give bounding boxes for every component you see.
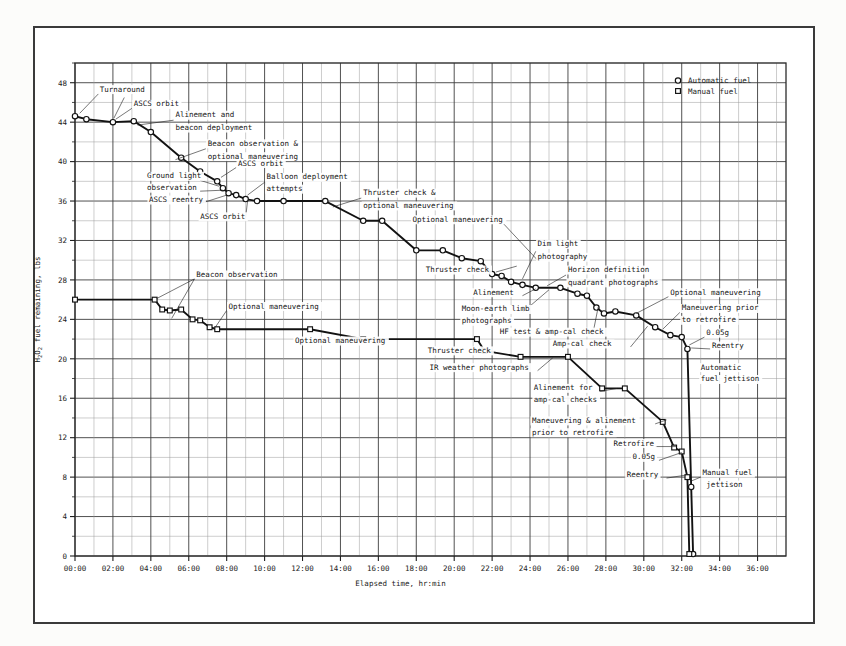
annotation-label: Optional maneuvering — [670, 288, 760, 297]
annotation-label: beacon deployment — [175, 123, 252, 132]
y-axis-title: H2O2 fuel remaining, lbs — [33, 257, 43, 363]
y-tick-label: 12 — [58, 433, 67, 442]
annotation-label: Thruster check — [428, 346, 492, 355]
annotation-leader — [522, 251, 535, 279]
data-point-automatic-fuel — [360, 218, 365, 223]
data-point-automatic-fuel — [459, 256, 464, 261]
annotation-leader — [691, 477, 700, 481]
x-tick-label: 14:00 — [329, 564, 352, 573]
y-tick-label: 48 — [58, 79, 68, 88]
annotation-leader — [248, 182, 265, 195]
data-point-automatic-fuel — [558, 285, 563, 290]
annotation-label: Optional maneuvering — [295, 336, 385, 345]
data-point-automatic-fuel — [668, 332, 673, 337]
annotation-label: photography — [538, 252, 588, 261]
x-tick-label: 06:00 — [177, 564, 200, 573]
legend-label-automatic-fuel: Automatic fuel — [688, 76, 751, 85]
data-point-manual-fuel — [190, 317, 195, 322]
annotation-label: fuel jettison — [701, 374, 760, 383]
annotation-label: Retrofire — [613, 439, 654, 448]
x-tick-label: 34:00 — [708, 564, 731, 573]
annotation-label: Balloon deployment — [266, 172, 347, 181]
annotation-label: ASCS reentry — [149, 195, 204, 204]
annotation-label: jettison — [706, 480, 742, 489]
y-tick-label: 36 — [58, 197, 68, 206]
annotation-leader — [636, 297, 668, 314]
annotation-label: 0.05g — [706, 328, 729, 337]
data-point-automatic-fuel — [226, 190, 231, 195]
annotation-label: observation — [147, 183, 197, 192]
annotation-leader — [659, 452, 682, 460]
data-point-manual-fuel — [672, 445, 677, 450]
x-tick-label: 24:00 — [519, 564, 542, 573]
annotation-leader — [138, 120, 174, 125]
x-tick-label: 36:00 — [746, 564, 769, 573]
data-point-manual-fuel — [566, 354, 571, 359]
data-point-automatic-fuel — [72, 114, 77, 119]
y-tick-label: 40 — [58, 157, 68, 166]
data-point-automatic-fuel — [215, 179, 220, 184]
data-point-manual-fuel — [160, 307, 165, 312]
annotation-label: quadrant photographs — [568, 278, 658, 287]
annotation-label: Horizon definition — [568, 265, 649, 274]
data-point-manual-fuel — [518, 354, 523, 359]
data-point-automatic-fuel — [652, 325, 657, 330]
data-point-manual-fuel — [600, 386, 605, 391]
annotation-label: attempts — [266, 184, 302, 193]
y-tick-label: 24 — [58, 315, 68, 324]
data-point-manual-fuel — [687, 552, 692, 557]
data-point-automatic-fuel — [254, 198, 259, 203]
annotation-label: Amp-cal check — [553, 339, 612, 348]
data-point-automatic-fuel — [520, 282, 525, 287]
data-point-automatic-fuel — [634, 313, 639, 318]
x-tick-label: 04:00 — [140, 564, 163, 573]
annotation-leader — [215, 310, 226, 327]
data-point-automatic-fuel — [499, 273, 504, 278]
data-point-automatic-fuel — [233, 192, 238, 197]
annotation-label: Alinement — [473, 288, 514, 297]
data-point-automatic-fuel — [379, 218, 384, 223]
annotation-label: Thruster check & — [363, 188, 436, 197]
data-point-automatic-fuel — [110, 119, 115, 124]
annotation-leader — [522, 289, 535, 296]
annotation-leader — [503, 224, 537, 260]
data-point-manual-fuel — [207, 325, 212, 330]
data-point-manual-fuel — [475, 337, 480, 342]
annotation-label: Reentry — [627, 470, 659, 479]
annotation-label: HF test & amp-cal check — [500, 327, 604, 336]
data-point-manual-fuel — [73, 297, 78, 302]
annotation-leader — [80, 94, 99, 114]
annotation-label: Automatic — [701, 363, 742, 372]
annotation-label: Optional maneuvering — [229, 302, 319, 311]
data-point-manual-fuel — [685, 475, 690, 480]
screenshot-root: 0481216202428323640444800:0002:0004:0006… — [0, 0, 846, 646]
data-point-automatic-fuel — [84, 117, 89, 122]
chart-canvas: 0481216202428323640444800:0002:0004:0006… — [0, 0, 846, 646]
legend-marker-manual-fuel — [676, 89, 681, 94]
y-tick-label: 4 — [62, 512, 67, 521]
annotation-label: Maneuvering prior — [682, 303, 759, 312]
annotation-label: Turnaround — [100, 85, 145, 94]
annotation-label: Reentry — [712, 341, 744, 350]
annotation-label: ASCS orbit — [238, 159, 283, 168]
annotation-leader — [538, 358, 553, 371]
annotation-label: Beacon observation & — [208, 139, 299, 148]
y-tick-label: 20 — [58, 355, 68, 364]
annotation-leader — [667, 475, 686, 478]
annotation-label: 0.05g — [632, 452, 655, 461]
y-tick-label: 44 — [58, 118, 68, 127]
annotation-leader — [547, 275, 566, 286]
y-tick-label: 28 — [58, 276, 68, 285]
annotation-leader — [333, 198, 361, 207]
data-point-automatic-fuel — [685, 346, 690, 351]
annotation-label: amp-cal checks — [534, 395, 597, 404]
data-point-automatic-fuel — [440, 248, 445, 253]
annotation-leader — [200, 190, 223, 191]
annotation-label: prior to retrofire — [532, 428, 614, 437]
x-tick-label: 22:00 — [481, 564, 504, 573]
data-point-manual-fuel — [215, 327, 220, 332]
data-point-automatic-fuel — [584, 293, 589, 298]
annotation-leader — [689, 337, 704, 345]
annotation-label: Dim light — [538, 239, 579, 248]
annotation-leader — [221, 168, 236, 178]
